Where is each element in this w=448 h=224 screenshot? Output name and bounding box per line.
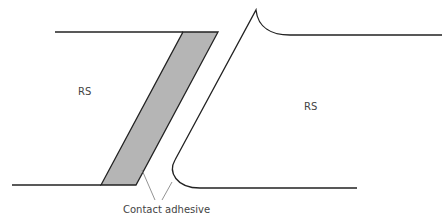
joint-diagram xyxy=(0,0,448,224)
diagram-canvas: RS RS Contact adhesive xyxy=(0,0,448,224)
leader-line-adhesive xyxy=(142,170,155,200)
adhesive-label: Contact adhesive xyxy=(123,204,210,215)
leader-line-bead xyxy=(162,182,172,200)
right-region-label: RS xyxy=(304,101,317,112)
left-region-label: RS xyxy=(78,86,91,97)
adhesive-layer xyxy=(101,32,218,185)
